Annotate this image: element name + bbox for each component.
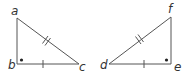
- label-c: c: [79, 60, 86, 73]
- label-b: b: [8, 58, 16, 72]
- triangle-def: d e f: [100, 2, 181, 73]
- edge-df: [109, 17, 171, 64]
- label-a: a: [11, 4, 18, 18]
- congruent-triangles-diagram: a b c d e f: [0, 0, 186, 73]
- triangle-abc: a b c: [8, 4, 86, 73]
- right-angle-marker-b: [20, 58, 23, 61]
- label-e: e: [174, 60, 181, 73]
- label-d: d: [100, 58, 108, 72]
- label-f: f: [168, 2, 174, 16]
- right-angle-marker-e: [165, 58, 168, 61]
